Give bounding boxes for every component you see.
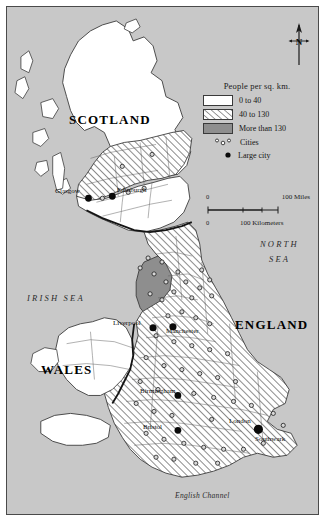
- legend-row-mid: 40 to 130: [203, 109, 311, 120]
- dot-london-southwark: [254, 425, 263, 434]
- scale-zero-bottom: 0: [206, 219, 209, 226]
- legend-label-high: More than 130: [239, 124, 286, 133]
- scale-zero-top: 0: [206, 193, 209, 200]
- dot-edinburgh: [109, 193, 116, 200]
- map-frame: SCOTLAND ENGLAND WALES NORTH SEA IRISH S…: [6, 6, 319, 515]
- legend-row-large-city: Large city: [203, 150, 311, 160]
- legend-swatch-low: [203, 95, 233, 106]
- scale-miles-label: 100 Miles: [282, 193, 310, 201]
- legend-row-cities: Cities: [203, 137, 311, 147]
- scale-bar-graphic: [206, 205, 310, 215]
- legend-title: People per sq. km.: [203, 81, 311, 91]
- scale-top-labels: 0 100 Miles: [206, 193, 310, 201]
- legend-row-low: 0 to 40: [203, 95, 311, 106]
- legend-swatch-high: [203, 123, 233, 134]
- legend-swatch-mid: [203, 109, 233, 120]
- scale-kilometers-label: 100 Kilometers: [240, 219, 283, 227]
- dot-bristol: [175, 427, 182, 434]
- dot-glasgow: [85, 195, 92, 202]
- legend-label-low: 0 to 40: [239, 96, 261, 105]
- dot-liverpool: [149, 324, 156, 331]
- legend-label-large-city: Large city: [238, 151, 271, 160]
- cities-symbol-icon: [213, 137, 235, 147]
- map-legend: People per sq. km. 0 to 40 40 to 130 Mor…: [203, 81, 311, 160]
- population-density-map: SCOTLAND ENGLAND WALES NORTH SEA IRISH S…: [0, 0, 325, 521]
- legend-label-mid: 40 to 130: [239, 110, 269, 119]
- legend-label-cities: Cities: [240, 138, 259, 147]
- legend-row-high: More than 130: [203, 123, 311, 134]
- dot-birmingham: [175, 392, 182, 399]
- scale-bottom-labels: 0 100 Kilometers: [206, 219, 310, 227]
- north-arrow-icon: N: [286, 21, 312, 67]
- map-scale-bar: 0 100 Miles 0 100 Kilometers: [206, 193, 310, 227]
- large-city-symbol-icon: [223, 150, 233, 160]
- north-letter: N: [296, 37, 303, 47]
- dot-manchester: [169, 323, 176, 330]
